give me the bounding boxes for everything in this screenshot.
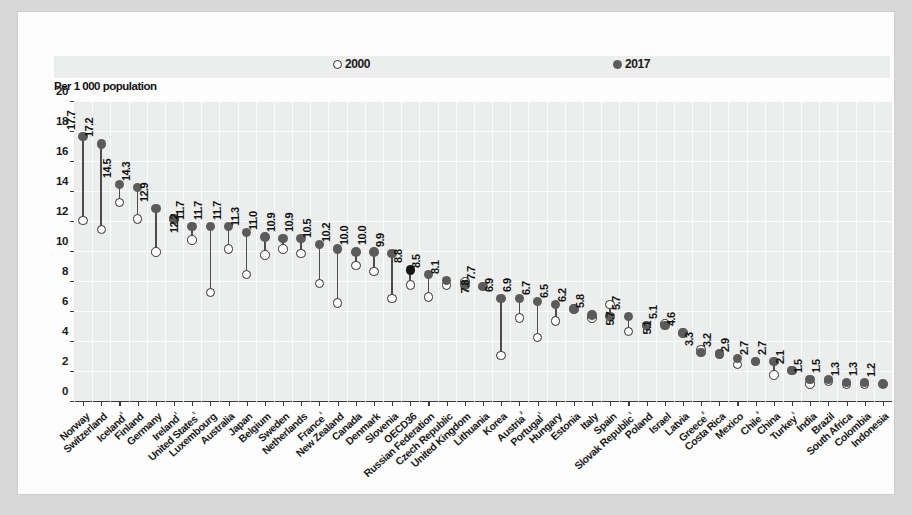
y-tick-label: 20 [56, 85, 68, 97]
y-tick-label: 6 [62, 295, 68, 307]
x-gridline [547, 102, 548, 402]
footnote-marker: ² [518, 410, 526, 418]
x-gridline [129, 102, 130, 402]
data-value-label: 14.3 [120, 161, 132, 180]
data-point-2000[interactable] [424, 292, 434, 302]
data-value-label: 8.8 [392, 250, 404, 264]
data-value-label: 1.3 [829, 362, 841, 376]
y-tick-label: 0 [62, 385, 68, 397]
data-point-2017[interactable] [696, 348, 706, 358]
y-gridline [74, 191, 892, 192]
x-gridline [674, 102, 675, 402]
legend-label-2017: 2017 [625, 58, 650, 70]
data-point-2000[interactable] [187, 235, 197, 245]
y-gridline [74, 221, 892, 222]
x-gridline [219, 102, 220, 402]
data-value-label: 10.2 [320, 223, 332, 242]
data-value-label: 10.0 [356, 226, 368, 245]
data-value-label: 8.5 [410, 254, 422, 268]
data-point-2000[interactable] [224, 244, 234, 254]
y-tick-label: 16 [56, 145, 68, 157]
data-point-2000[interactable] [406, 280, 416, 290]
footnote-marker: ¹ [627, 410, 635, 418]
data-value-label: 11.7 [192, 201, 204, 219]
x-gridline [365, 102, 366, 402]
x-gridline [183, 102, 184, 402]
footnote-marker: ¹ [318, 410, 326, 418]
data-value-label: 5.1 [647, 305, 659, 319]
data-point-2000[interactable] [260, 250, 270, 260]
x-gridline [201, 102, 202, 402]
x-gridline [856, 102, 857, 402]
y-tick-label: 10 [56, 235, 68, 247]
plot-background [74, 102, 892, 402]
data-value-label: 14.5 [101, 158, 113, 177]
x-gridline [419, 102, 420, 402]
data-point-2000[interactable] [296, 249, 306, 259]
data-value-label: 10.9 [283, 212, 295, 231]
x-axis-category-labels: NorwaySwitzerlandIceland¹FinlandGermanyI… [74, 406, 892, 498]
data-value-label: 10.9 [265, 212, 277, 231]
x-gridline [165, 102, 166, 402]
data-point-2000[interactable] [351, 261, 361, 271]
data-point-2017[interactable] [333, 244, 343, 254]
data-point-2000[interactable] [333, 298, 343, 308]
data-point-2000[interactable] [133, 214, 143, 224]
y-gridline [74, 311, 892, 312]
data-value-label: 8.1 [429, 260, 441, 274]
data-point-2017[interactable] [278, 234, 288, 244]
data-point-2017[interactable] [805, 375, 815, 385]
data-point-2000[interactable] [496, 351, 506, 361]
y-gridline [74, 341, 892, 342]
connector-line [100, 144, 102, 230]
data-point-2000[interactable] [369, 267, 379, 277]
x-gridline [819, 102, 820, 402]
data-value-label: 3.3 [683, 332, 695, 346]
x-gridline [747, 102, 748, 402]
data-point-2017[interactable] [97, 139, 107, 149]
data-point-2000[interactable] [151, 247, 161, 257]
data-value-label: 12.9 [138, 182, 150, 201]
data-point-2017[interactable] [496, 294, 506, 304]
data-point-2017[interactable] [151, 204, 161, 214]
x-gridline [92, 102, 93, 402]
plot-area: 0246810121416182017.717.214.514.312.912.… [74, 102, 892, 402]
data-point-2000[interactable] [387, 294, 397, 304]
data-value-label: 7.7 [465, 266, 477, 280]
x-gridline [583, 102, 584, 402]
y-tick-label: 14 [56, 175, 68, 187]
data-point-2017[interactable] [351, 247, 361, 257]
data-point-2017[interactable] [187, 222, 197, 232]
data-point-2017[interactable] [369, 247, 379, 257]
data-value-label: 11.0 [247, 212, 259, 230]
data-value-label: 4.6 [665, 313, 677, 327]
data-value-label: 2.7 [738, 341, 750, 355]
footnote-marker: ² [699, 410, 707, 418]
footnote-marker: ¹ [790, 410, 798, 418]
y-gridline [74, 251, 892, 252]
legend-entry-2000[interactable]: 2000 [333, 58, 370, 70]
x-gridline [638, 102, 639, 402]
x-gridline [619, 102, 620, 402]
data-value-label: 7.8 [459, 280, 471, 294]
x-gridline [310, 102, 311, 402]
data-value-label: 1.2 [865, 364, 877, 378]
data-value-label: 17.2 [83, 118, 95, 137]
data-point-2000[interactable] [515, 313, 525, 323]
data-value-label: 1.5 [792, 359, 804, 373]
y-tick-label: 4 [62, 325, 68, 337]
data-value-label: 10.0 [338, 226, 350, 245]
data-point-2000[interactable] [78, 216, 88, 226]
connector-line [500, 299, 502, 356]
legend-entry-2017[interactable]: 2017 [613, 58, 650, 70]
data-point-2017[interactable] [878, 379, 888, 389]
data-value-label: 10.5 [301, 218, 313, 237]
data-value-label: 6.9 [483, 278, 495, 292]
data-value-label: 6.7 [520, 281, 532, 295]
data-point-2000[interactable] [769, 370, 779, 380]
data-point-2017[interactable] [587, 310, 597, 320]
data-point-2000[interactable] [278, 244, 288, 254]
data-point-2017[interactable] [260, 232, 270, 242]
x-gridline [328, 102, 329, 402]
data-value-label: 1.5 [810, 359, 822, 373]
